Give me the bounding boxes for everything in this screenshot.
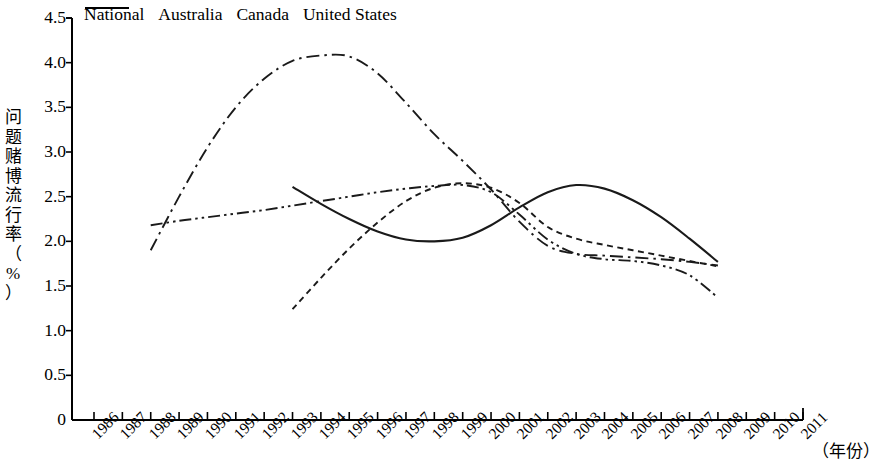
- chart-plot-area: [0, 0, 875, 473]
- series-line-canada: [151, 55, 718, 266]
- x-axis-title: （年份）: [812, 437, 875, 462]
- series-line-australia: [293, 183, 718, 309]
- chart-figure: National Australia Canada United States …: [0, 0, 875, 473]
